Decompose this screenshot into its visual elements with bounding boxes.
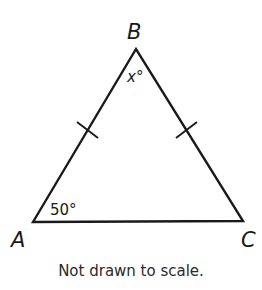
vertex-label-b: B bbox=[127, 20, 141, 44]
vertex-label-a: A bbox=[9, 228, 25, 252]
caption-not-to-scale: Not drawn to scale. bbox=[0, 262, 262, 280]
tick-mark-bc bbox=[176, 122, 197, 138]
angle-label-a: 50° bbox=[50, 201, 77, 219]
triangle-diagram: B A C x° 50° bbox=[0, 0, 262, 290]
vertex-label-c: C bbox=[241, 228, 256, 252]
tick-mark-ab bbox=[77, 122, 98, 138]
angle-label-b: x° bbox=[126, 68, 143, 86]
